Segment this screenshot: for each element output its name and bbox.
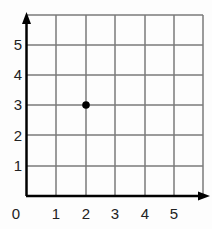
x-axis: [26, 192, 210, 201]
y-tick-1: 1: [14, 157, 22, 174]
x-tick-1: 1: [52, 205, 60, 222]
x-tick-3: 3: [111, 205, 119, 222]
y-axis-arrow-icon: [22, 12, 31, 24]
origin-label: 0: [12, 205, 20, 222]
x-axis-arrow-icon: [198, 192, 210, 201]
x-tick-4: 4: [141, 205, 149, 222]
grid: [26, 15, 203, 196]
y-axis: [22, 12, 31, 196]
y-tick-2: 2: [14, 127, 22, 144]
x-tick-labels: 0 1 2 3 4 5: [12, 205, 178, 222]
y-tick-5: 5: [14, 36, 22, 53]
coordinate-plane: 0 1 2 3 4 5 1 2 3 4 5: [0, 0, 212, 229]
data-point: [82, 101, 90, 109]
x-tick-5: 5: [170, 205, 178, 222]
y-tick-3: 3: [14, 96, 22, 113]
x-tick-2: 2: [82, 205, 90, 222]
y-tick-4: 4: [14, 66, 22, 83]
y-tick-labels: 1 2 3 4 5: [14, 36, 22, 174]
